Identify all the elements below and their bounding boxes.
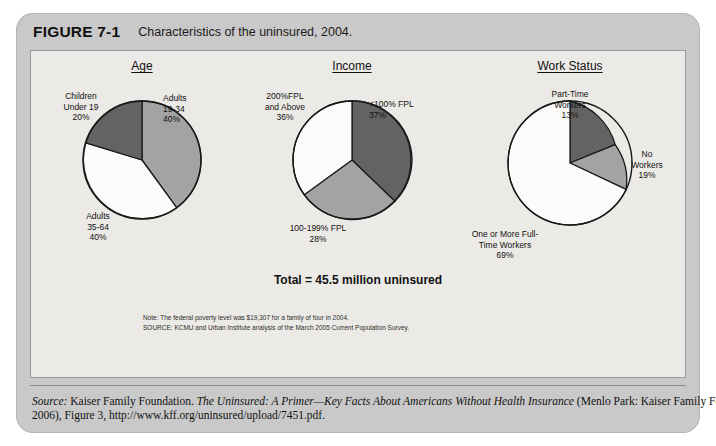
figure-body-panel: Age Adults 19-34 40% Adults 35-64 40% Ch… bbox=[30, 50, 686, 378]
pie-label-part-time-workers: Part-Time Workers 13% bbox=[535, 89, 605, 121]
total-uninsured-line: Total = 45.5 million uninsured bbox=[31, 273, 685, 287]
charts-row: Age Adults 19-34 40% Adults 35-64 40% Ch… bbox=[31, 51, 685, 273]
source-part-1: Kaiser Family Foundation. bbox=[67, 395, 196, 407]
pie-label-100-199-fpl: 100-199% FPL 28% bbox=[273, 223, 363, 244]
chart-work-status-title: Work Status bbox=[461, 59, 679, 73]
chart-age-title: Age bbox=[33, 59, 251, 73]
note-poverty-level: Note: The federal poverty level was $19,… bbox=[143, 313, 663, 323]
figure-header: FIGURE 7-1 Characteristics of the uninsu… bbox=[17, 14, 699, 50]
source-footer-line-1: Source: Kaiser Family Foundation. The Un… bbox=[32, 394, 688, 408]
chart-income: Income <100% FPL 37% 100-199% FPL 28% 20… bbox=[243, 51, 461, 273]
source-label: Source: bbox=[32, 395, 67, 407]
pie-label-adults-35-64: Adults 35-64 40% bbox=[63, 211, 133, 243]
source-footer-line-2: 2006), Figure 3, http://www.kff.org/unin… bbox=[32, 408, 688, 422]
pie-label-full-time-workers: One or More Full- Time Workers 69% bbox=[457, 229, 553, 261]
chart-age: Age Adults 19-34 40% Adults 35-64 40% Ch… bbox=[33, 51, 251, 273]
pie-label-200-fpl-and-above: 200%FPL and Above 36% bbox=[249, 91, 321, 123]
note-source: SOURCE: KCMU and Urban Institute analysi… bbox=[143, 323, 663, 333]
pie-label-no-workers: No Workers 19% bbox=[621, 149, 673, 181]
figure-caption: Characteristics of the uninsured, 2004. bbox=[138, 25, 352, 39]
notes-block: Note: The federal poverty level was $19,… bbox=[143, 313, 663, 332]
chart-work-status: Work Status Part-Time Workers 13% No Wor… bbox=[461, 51, 679, 273]
pie-label-children-under-19: Children Under 19 20% bbox=[47, 91, 115, 123]
chart-income-title: Income bbox=[243, 59, 461, 73]
source-publication-title: The Uninsured: A Primer—Key Facts About … bbox=[197, 395, 574, 407]
figure-number: FIGURE 7-1 bbox=[33, 23, 120, 41]
pie-label-under-100-fpl: <100% FPL 37% bbox=[369, 99, 414, 120]
figure-card: FIGURE 7-1 Characteristics of the uninsu… bbox=[17, 14, 699, 432]
footer-divider bbox=[30, 385, 686, 386]
pie-label-adults-19-34: Adults 19-34 40% bbox=[163, 93, 187, 125]
source-footer: Source: Kaiser Family Foundation. The Un… bbox=[32, 394, 688, 422]
source-part-2: (Menlo Park: Kaiser Family Foundation, bbox=[574, 395, 716, 407]
